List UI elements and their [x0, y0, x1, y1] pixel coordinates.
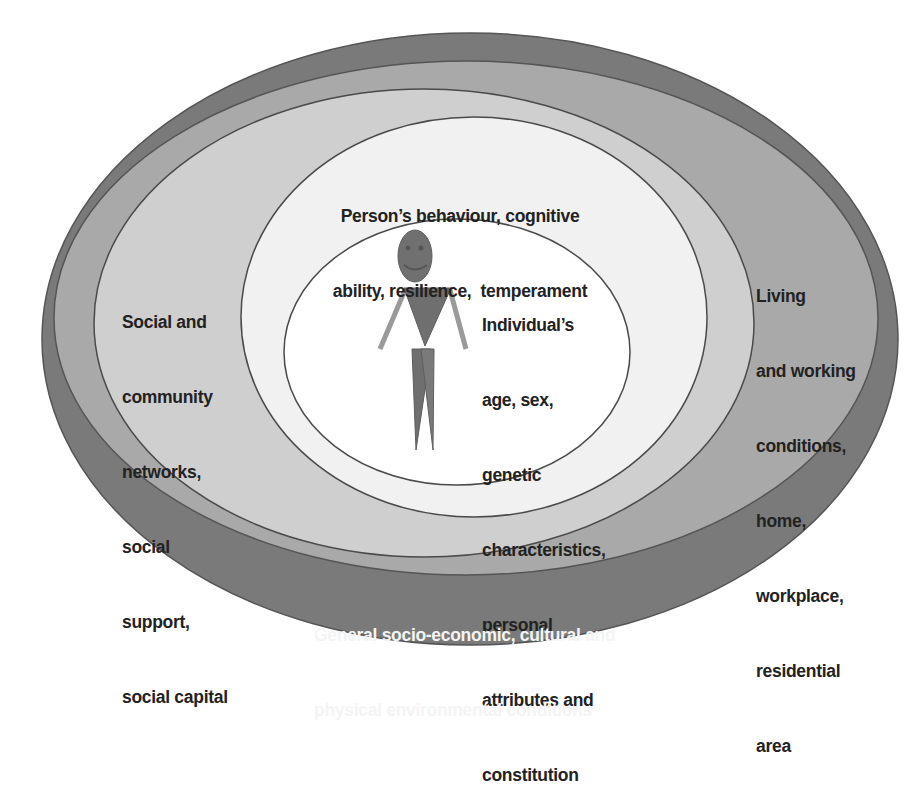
label-line: home, — [756, 509, 856, 534]
label-line: social capital — [122, 685, 228, 710]
label-line: Living — [756, 284, 856, 309]
label-line: Individual’s — [482, 313, 606, 338]
label-line: Person’s behaviour, cognitive — [300, 204, 620, 229]
label-line: physical environmental conditions — [314, 698, 615, 723]
label-line: General socio-economic, cultural and — [314, 623, 615, 648]
label-line: and working — [756, 359, 856, 384]
label-line: community — [122, 385, 228, 410]
label-line: genetic — [482, 463, 606, 488]
label-line: area — [756, 734, 856, 759]
label-social-community: Social and community networks, social su… — [122, 260, 228, 735]
label-line: networks, — [122, 460, 228, 485]
label-line: support, — [122, 610, 228, 635]
label-line: social — [122, 535, 228, 560]
label-line: age, sex, — [482, 388, 606, 413]
label-line: workplace, — [756, 584, 856, 609]
label-line: residential — [756, 659, 856, 684]
label-line: conditions, — [756, 434, 856, 459]
label-living-working: Living and working conditions, home, wor… — [756, 234, 856, 784]
label-general-conditions: General socio-economic, cultural and phy… — [314, 573, 615, 748]
label-line: characteristics, — [482, 538, 606, 563]
label-line: Social and — [122, 310, 228, 335]
label-line: constitution — [482, 763, 606, 785]
